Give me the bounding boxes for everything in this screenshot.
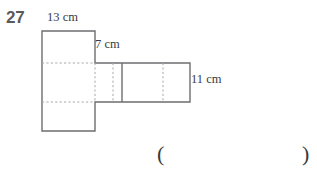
label-7cm: 7 cm [95,37,120,52]
worksheet-page: 27 13 cm 7 cm 11 cm ( ) [0,0,317,172]
label-13cm: 13 cm [47,10,78,25]
band-faces-fill [95,63,190,102]
column-faces-fill [42,31,95,131]
answer-close-paren: ) [302,143,309,165]
label-11cm: 11 cm [191,72,221,87]
answer-open-paren: ( [157,143,164,165]
